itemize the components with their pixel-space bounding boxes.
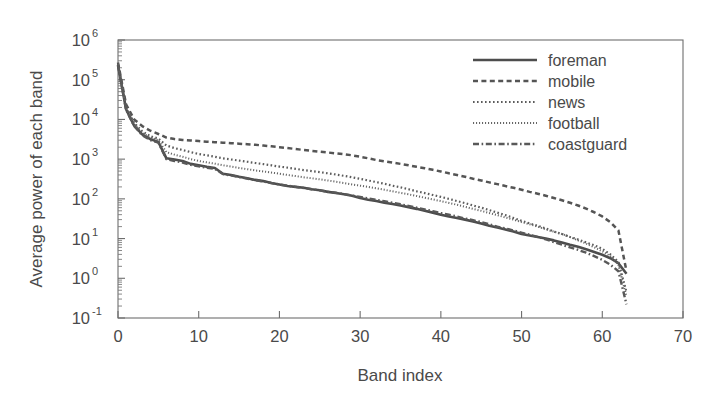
y-tick-exponent: 2 bbox=[92, 186, 98, 198]
x-tick-label: 40 bbox=[432, 327, 450, 345]
y-tick-exponent: 6 bbox=[92, 27, 98, 39]
y-tick-exponent: 0 bbox=[92, 265, 98, 277]
y-tick-mantissa: 10 bbox=[72, 190, 90, 208]
x-tick-label: 10 bbox=[190, 327, 208, 345]
y-tick-label: 105 bbox=[72, 67, 98, 89]
x-axis-tick-labels: 010203040506070 bbox=[113, 327, 692, 345]
y-tick-label: 10-1 bbox=[72, 305, 102, 327]
y-tick-mantissa: 10 bbox=[72, 230, 90, 248]
y-tick-label: 106 bbox=[72, 27, 98, 49]
y-tick-label: 102 bbox=[72, 186, 98, 208]
y-tick-exponent: 3 bbox=[92, 146, 98, 158]
x-tick-label: 30 bbox=[351, 327, 369, 345]
y-tick-label: 101 bbox=[72, 226, 98, 248]
y-tick-mantissa: 10 bbox=[72, 110, 90, 128]
chart-figure: 010203040506070 10-110010110210310410510… bbox=[0, 0, 728, 394]
legend-label-foreman: foreman bbox=[548, 52, 607, 69]
legend-label-mobile: mobile bbox=[548, 73, 595, 90]
y-tick-label: 100 bbox=[72, 265, 98, 287]
y-tick-mantissa: 10 bbox=[72, 150, 90, 168]
x-axis-ticks bbox=[118, 311, 683, 318]
x-tick-label: 50 bbox=[512, 327, 530, 345]
x-tick-label: 20 bbox=[270, 327, 288, 345]
y-tick-label: 103 bbox=[72, 146, 98, 168]
y-tick-label: 104 bbox=[72, 106, 98, 128]
legend-label-news: news bbox=[548, 94, 585, 111]
legend-label-coastguard: coastguard bbox=[548, 136, 627, 153]
y-tick-mantissa: 10 bbox=[72, 71, 90, 89]
y-tick-exponent: -1 bbox=[92, 305, 102, 317]
y-tick-mantissa: 10 bbox=[72, 269, 90, 287]
x-axis-label: Band index bbox=[357, 366, 443, 385]
x-tick-label: 0 bbox=[113, 327, 122, 345]
y-tick-exponent: 4 bbox=[92, 106, 98, 118]
y-axis-tick-labels: 10-1100101102103104105106 bbox=[72, 27, 102, 327]
legend-label-football: football bbox=[548, 115, 600, 132]
x-tick-label: 70 bbox=[674, 327, 692, 345]
y-tick-mantissa: 10 bbox=[72, 31, 90, 49]
y-tick-exponent: 1 bbox=[92, 226, 98, 238]
y-tick-exponent: 5 bbox=[92, 67, 98, 79]
x-tick-label: 60 bbox=[593, 327, 611, 345]
y-tick-mantissa: 10 bbox=[72, 309, 90, 327]
chart-legend: foremanmobilenewsfootballcoastguard bbox=[462, 42, 680, 153]
y-axis-label: Average power of each band bbox=[27, 70, 46, 287]
